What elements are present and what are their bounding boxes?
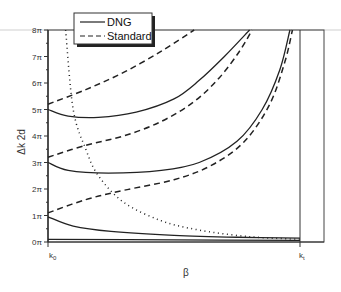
light-line-curve [66, 30, 300, 239]
y-axis-label: Δk 2d [16, 129, 27, 155]
standard-curve [48, 30, 292, 213]
y-tick-label: 8π [32, 26, 42, 35]
x-tick-kt: kt [299, 251, 305, 261]
standard-curve [48, 30, 252, 157]
legend: DNG Standard [74, 13, 155, 47]
x-tick-k0: k0 [49, 251, 57, 261]
y-tick-label: 5π [32, 106, 42, 115]
dng-curve [48, 239, 300, 240]
y-tick-label: 0π [32, 238, 42, 247]
x-axis-label: β [183, 267, 189, 278]
legend-standard-label: Standard [107, 30, 152, 42]
y-tick-labels: 0π1π2π3π4π5π6π7π8π [32, 26, 42, 247]
y-tick-label: 6π [32, 79, 42, 88]
y-tick-label: 1π [32, 212, 42, 221]
dispersion-chart: 0π1π2π3π4π5π6π7π8π k0 kt β Δk 2d DNG Sta… [0, 0, 341, 292]
y-tick-label: 4π [32, 132, 42, 141]
legend-dng-label: DNG [107, 16, 131, 28]
y-tick-label: 2π [32, 185, 42, 194]
curves [48, 30, 300, 240]
dng-curve [48, 217, 300, 238]
y-tick-label: 3π [32, 159, 42, 168]
y-tick-label: 7π [32, 53, 42, 62]
